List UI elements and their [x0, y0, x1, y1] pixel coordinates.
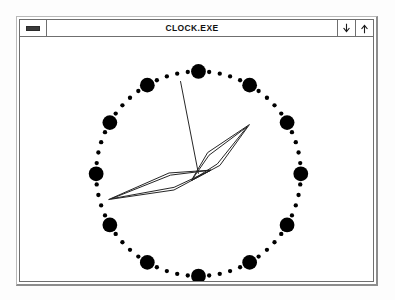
- minute-marker-dot: [294, 203, 298, 207]
- minute-marker-dot: [186, 70, 190, 74]
- up-arrow-icon: [359, 23, 370, 34]
- minute-marker-dot: [218, 72, 222, 76]
- minute-marker-dot: [186, 273, 190, 277]
- system-menu-button[interactable]: [20, 20, 47, 36]
- minute-marker-dot: [296, 193, 300, 197]
- minute-marker-dot: [290, 213, 294, 217]
- maximize-button[interactable]: [355, 20, 373, 36]
- minute-marker-dot: [228, 74, 232, 78]
- hour-marker-dot: [280, 115, 295, 130]
- minute-marker-dot: [298, 182, 302, 186]
- minute-marker-dot: [279, 111, 283, 115]
- minute-marker-dot: [99, 140, 103, 144]
- minute-marker-dot: [136, 254, 140, 258]
- minimize-button[interactable]: [337, 20, 355, 36]
- minute-marker-dot: [238, 265, 242, 269]
- minute-marker-dot: [155, 265, 159, 269]
- minute-marker-dot: [265, 248, 269, 252]
- second-hand: [180, 81, 198, 174]
- minute-marker-dot: [95, 161, 99, 165]
- minute-marker-dot: [155, 78, 159, 82]
- minute-marker-dot: [103, 213, 107, 217]
- hour-hand: [192, 127, 248, 181]
- clock-face: [20, 37, 373, 281]
- hour-marker-dot: [89, 166, 104, 181]
- hour-marker-dot: [140, 78, 155, 93]
- minute-marker-dot: [256, 89, 260, 93]
- hour-marker-dot: [191, 269, 206, 281]
- title-bar[interactable]: CLOCK.EXE: [20, 20, 373, 37]
- minute-marker-dot: [96, 193, 100, 197]
- minute-marker-dot: [272, 103, 276, 107]
- minute-marker-dot: [120, 103, 124, 107]
- hour-marker-dot: [242, 78, 257, 93]
- hour-marker-dot: [140, 255, 155, 270]
- minute-marker-dot: [298, 161, 302, 165]
- minute-marker-dot: [103, 130, 107, 134]
- clock-window[interactable]: CLOCK.EXE: [16, 16, 378, 286]
- minute-marker-dot: [128, 96, 132, 100]
- window-menu-bar-icon: [26, 26, 40, 31]
- hour-marker-dot: [191, 64, 206, 79]
- minute-marker-dot: [207, 70, 211, 74]
- hour-marker-dot: [102, 218, 117, 233]
- minute-marker-dot: [136, 89, 140, 93]
- minute-marker-dot: [294, 140, 298, 144]
- down-arrow-icon: [341, 23, 352, 34]
- minute-marker-dot: [99, 203, 103, 207]
- minute-marker-dot: [114, 232, 118, 236]
- minute-marker-dot: [296, 150, 300, 154]
- minute-marker-dot: [207, 273, 211, 277]
- minute-marker-dot: [218, 272, 222, 276]
- minute-marker-dot: [128, 248, 132, 252]
- minute-marker-dot: [120, 240, 124, 244]
- minute-marker-dot: [165, 74, 169, 78]
- minute-marker-dot: [272, 240, 276, 244]
- minute-marker-dot: [165, 269, 169, 273]
- window-inner-frame: CLOCK.EXE: [19, 19, 374, 282]
- minute-marker-dot: [238, 78, 242, 82]
- hour-marker-dot: [102, 115, 117, 130]
- hour-hand: [191, 125, 249, 181]
- minute-marker-dot: [114, 111, 118, 115]
- page-title: CLOCK.EXE: [165, 23, 218, 33]
- minute-marker-dot: [228, 269, 232, 273]
- minute-marker-dot: [96, 150, 100, 154]
- minute-marker-dot: [175, 72, 179, 76]
- minute-marker-dot: [290, 130, 294, 134]
- title-text-area: CLOCK.EXE: [47, 20, 337, 36]
- minute-marker-dot: [279, 232, 283, 236]
- hour-marker-dot: [293, 166, 308, 181]
- minute-marker-dot: [95, 182, 99, 186]
- clock-client-area[interactable]: [20, 37, 373, 281]
- minute-marker-dot: [256, 254, 260, 258]
- minute-marker-dot: [265, 96, 269, 100]
- hour-marker-dot: [242, 255, 257, 270]
- hour-marker-dot: [280, 218, 295, 233]
- desktop-background: CLOCK.EXE: [0, 0, 395, 300]
- minute-marker-dot: [175, 272, 179, 276]
